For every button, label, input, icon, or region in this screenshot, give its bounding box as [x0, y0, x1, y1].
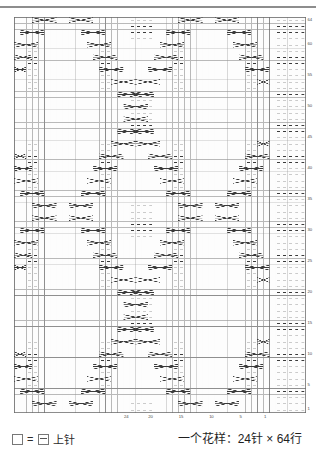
blank-stitch-icon: [12, 434, 23, 445]
row-number-label: 1: [308, 406, 310, 411]
column-number-label: 15: [179, 414, 183, 419]
row-number-label: 60: [308, 41, 312, 46]
legend-equals: =: [27, 433, 33, 445]
chart-grid: [14, 17, 306, 413]
column-number-label: 1: [264, 414, 266, 419]
column-number-label: 5: [240, 414, 242, 419]
row-number-label: 30: [308, 227, 312, 232]
row-number-label: 40: [308, 165, 312, 170]
row-number-label: 55: [308, 72, 312, 77]
row-number-label: 5: [308, 382, 310, 387]
knitting-chart: 64605550454035302520151051 2420151051: [14, 17, 306, 413]
column-number-label: 10: [209, 414, 213, 419]
legend: = 上针: [12, 431, 75, 447]
row-number-label: 45: [308, 134, 312, 139]
legend-label: 上针: [53, 431, 75, 447]
row-number-label: 15: [308, 320, 312, 325]
column-number-label: 20: [148, 414, 152, 419]
row-number-label: 10: [308, 351, 312, 356]
top-divider-rule: [0, 6, 316, 8]
row-number-label: 50: [308, 103, 312, 108]
row-number-label: 35: [308, 196, 312, 201]
row-number-label: 25: [308, 258, 312, 263]
row-number-label: 20: [308, 289, 312, 294]
purl-stitch-icon: [38, 434, 49, 445]
column-number-label: 24: [124, 414, 128, 419]
row-number-label: 64: [308, 17, 312, 22]
pattern-repeat-caption: 一个花样：24针 × 64行: [178, 429, 302, 446]
